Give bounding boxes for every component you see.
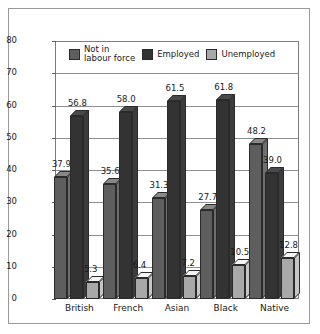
bar-value-label: 58.0 (117, 94, 136, 104)
bar-value-label: 31.3 (150, 180, 169, 190)
legend-item[interactable]: Employed (142, 49, 199, 60)
y-axis-tick-label: 60 (0, 100, 17, 110)
bar-value-label: 56.8 (68, 98, 87, 108)
bar-top-face (183, 270, 196, 276)
bar-front-face (265, 173, 278, 299)
legend-swatch (206, 49, 217, 60)
y-axis-tick-label: 50 (0, 132, 17, 142)
bar-value-label: 7.2 (181, 258, 195, 268)
x-axis-label: British (55, 303, 104, 313)
bar-front-face (86, 282, 99, 299)
bar-top-face (167, 95, 180, 101)
bar-top-face (249, 138, 262, 144)
bar-value-label: 61.5 (165, 83, 184, 93)
bar-value-label: 48.2 (247, 126, 266, 136)
legend-item[interactable]: Not in labour force (69, 45, 135, 63)
bar-top-face (54, 171, 67, 177)
bar-front-face (232, 265, 245, 299)
bar-front-face (119, 112, 132, 299)
bar-group: 31.361.57.2 (153, 41, 202, 299)
bar-top-face (281, 252, 294, 258)
bar-group: 27.761.810.5 (201, 41, 250, 299)
legend-swatch (69, 49, 80, 60)
x-axis-label: French (104, 303, 153, 313)
bar-front-face (70, 116, 83, 299)
y-axis-tick-label: 10 (0, 261, 17, 271)
bar[interactable]: 27.7 (200, 210, 213, 299)
bar-front-face (167, 101, 180, 299)
bar[interactable]: 58.0 (119, 112, 132, 299)
y-axis-tick-label: 0 (0, 293, 17, 303)
bar-value-label: 5.3 (84, 264, 98, 274)
bar[interactable]: 6.4 (135, 278, 148, 299)
bar-value-label: 10.5 (230, 247, 249, 257)
bar[interactable]: 56.8 (70, 116, 83, 299)
bar-top-face (135, 272, 148, 278)
bar-top-face (103, 178, 116, 184)
bar-series-container: 37.956.85.335.658.06.431.361.57.227.761.… (55, 41, 299, 299)
y-axis-tick-label: 70 (0, 67, 17, 77)
y-axis-tick (52, 299, 56, 300)
bar[interactable]: 61.5 (167, 101, 180, 299)
bar-top-face (265, 167, 278, 173)
x-axis-label: Black (201, 303, 250, 313)
y-axis-tick-label: 30 (0, 196, 17, 206)
legend-swatch (142, 49, 153, 60)
legend-item[interactable]: Unemployed (206, 49, 275, 60)
bar[interactable]: 61.8 (216, 100, 229, 299)
bar[interactable]: 48.2 (249, 144, 262, 299)
bar-top-face (200, 204, 213, 210)
bar-value-label: 6.4 (133, 260, 147, 270)
y-axis-tick-label: 80 (0, 35, 17, 45)
x-axis-label: Asian (153, 303, 202, 313)
y-axis-tick-label: 40 (0, 164, 17, 174)
chart-legend: Not in labour forceEmployedUnemployed (69, 45, 275, 63)
bar-front-face (103, 184, 116, 299)
bar-top-face (70, 110, 83, 116)
bar-top-face (86, 276, 99, 282)
bar-value-label: 27.7 (198, 192, 217, 202)
bar-top-face (232, 259, 245, 265)
legend-label: Unemployed (221, 50, 275, 59)
y-axis-tick-label: 20 (0, 229, 17, 239)
bar-value-label: 37.9 (52, 159, 71, 169)
bar-front-face (200, 210, 213, 299)
bar-group: 35.658.06.4 (104, 41, 153, 299)
chart-frame: Percentage 01020304050607080 37.956.85.3… (8, 8, 310, 324)
bar[interactable]: 39.0 (265, 173, 278, 299)
bar[interactable]: 7.2 (183, 276, 196, 299)
bar-front-face (183, 276, 196, 299)
bar-value-label: 39.0 (263, 155, 282, 165)
legend-label: Not in labour force (84, 45, 135, 63)
bar-value-label: 12.8 (279, 240, 298, 250)
bar-front-face (249, 144, 262, 299)
bar[interactable]: 10.5 (232, 265, 245, 299)
bar-value-label: 35.6 (101, 166, 120, 176)
x-axis-labels: BritishFrenchAsianBlackNative (55, 303, 299, 319)
bar[interactable]: 31.3 (152, 198, 165, 299)
bar-group: 48.239.012.8 (250, 41, 299, 299)
bar-top-face (152, 192, 165, 198)
bar[interactable]: 37.9 (54, 177, 67, 299)
bar-front-face (281, 258, 294, 299)
bar-front-face (135, 278, 148, 299)
x-axis-label: Native (250, 303, 299, 313)
bar[interactable]: 35.6 (103, 184, 116, 299)
bar-front-face (216, 100, 229, 299)
bar-side-face (180, 95, 186, 299)
bar-front-face (152, 198, 165, 299)
bar-side-face (294, 252, 300, 299)
bar-value-label: 61.8 (214, 82, 233, 92)
bar-group: 37.956.85.3 (55, 41, 104, 299)
bar-top-face (119, 106, 132, 112)
bar[interactable]: 12.8 (281, 258, 294, 299)
bar[interactable]: 5.3 (86, 282, 99, 299)
bar-front-face (54, 177, 67, 299)
legend-label: Employed (157, 50, 199, 59)
bar-top-face (216, 94, 229, 100)
